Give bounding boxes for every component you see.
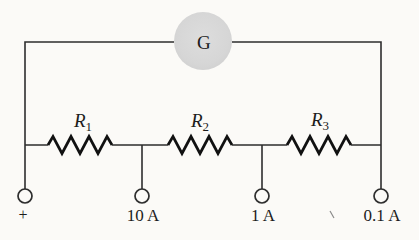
r3-subscript: 3 [323,118,330,133]
r1-subscript: 1 [86,119,93,134]
label-r1: R1 [74,111,92,130]
resistor-r1-symbol [48,137,112,154]
label-terminal-10a: 10 A [127,207,160,224]
circuit-diagram: G R1 R2 R3 + 10 A 1 A 0.1 A [0,0,419,240]
label-terminal-01a: 0.1 A [364,207,401,224]
r2-symbol-text: R [191,110,203,131]
label-terminal-positive: + [18,207,27,223]
r2-subscript: 2 [203,119,210,134]
galvanometer-label: G [197,33,211,52]
resistor-r3-symbol [287,137,351,154]
r1-symbol-text: R [74,110,86,131]
label-terminal-1a: 1 A [251,207,275,224]
print-artifact [330,211,334,218]
resistor-r2-symbol [168,137,232,154]
label-r3: R3 [311,110,329,129]
terminal-01a-circle [374,189,388,203]
r3-symbol-text: R [311,109,323,130]
label-r2: R2 [191,111,209,130]
terminal-1a-circle [255,189,269,203]
terminal-positive-circle [18,189,32,203]
terminal-10a-circle [135,189,149,203]
